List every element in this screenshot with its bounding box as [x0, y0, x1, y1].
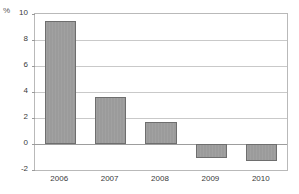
bar-chart: % 1086420-2 20062007200820092010: [0, 0, 299, 194]
bar-2007: [95, 97, 126, 144]
y-axis-tick-label: 2: [24, 113, 28, 121]
bar-2006: [45, 21, 76, 145]
x-axis-tick-label: 2007: [101, 174, 119, 184]
y-axis-tick-label: -2: [21, 165, 28, 173]
y-axis-tick-mark: [32, 66, 35, 67]
y-axis-tick-mark: [32, 40, 35, 41]
x-axis-tick-label: 2009: [201, 174, 219, 184]
x-axis-tick-label: 2010: [252, 174, 270, 184]
bar-2008: [145, 122, 176, 144]
y-axis-tick-label: 0: [24, 139, 28, 147]
y-axis-tick-label: 8: [24, 35, 28, 43]
x-axis-tick-label: 2006: [50, 174, 68, 184]
y-axis-tick-label: 4: [24, 87, 28, 95]
x-axis-tick-labels: 20062007200820092010: [34, 174, 288, 190]
y-axis-tick-mark: [32, 118, 35, 119]
bar-2009: [196, 144, 227, 158]
y-axis-tick-mark: [32, 92, 35, 93]
plot-area: [34, 13, 288, 171]
y-axis-tick-label: 6: [24, 61, 28, 69]
y-axis-tick-mark: [32, 14, 35, 15]
x-axis-tick-label: 2008: [151, 174, 169, 184]
y-axis-tick-labels: 1086420-2: [0, 0, 31, 194]
y-axis-tick-label: 10: [19, 9, 28, 17]
bar-2010: [246, 144, 277, 161]
y-axis-tick-mark: [32, 170, 35, 171]
y-axis-tick-mark: [32, 144, 35, 145]
